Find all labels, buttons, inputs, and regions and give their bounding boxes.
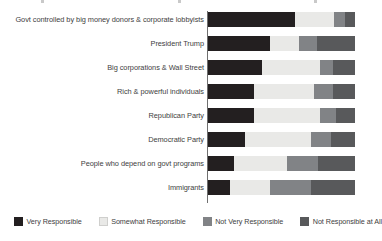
bar-segment-not-very-responsible	[287, 156, 318, 171]
legend-swatch-icon	[203, 217, 212, 226]
bar-segment-somewhat-responsible	[234, 156, 287, 171]
chart-legend: Very Responsible Somewhat Responsible No…	[0, 213, 374, 229]
bar-segment-very-responsible	[208, 84, 254, 99]
bar-segment-not-responsible-at-all	[345, 12, 355, 27]
bar-segment-not-responsible-at-all	[311, 180, 355, 195]
category-label: Rich & powerful individuals	[117, 83, 204, 100]
legend-label: Not Very Responsible	[215, 217, 283, 226]
bar-segment-somewhat-responsible	[230, 180, 270, 195]
category-label: Republican Party	[149, 107, 204, 124]
chart-row: Immigrants	[0, 179, 374, 196]
bar-segment-somewhat-responsible	[295, 12, 335, 27]
category-label: President Trump	[151, 35, 204, 52]
legend-label: Very Responsible	[27, 217, 82, 226]
category-label: Immigrants	[168, 179, 204, 196]
category-label: Democratic Party	[148, 131, 204, 148]
bar-segment-somewhat-responsible	[245, 132, 311, 147]
stacked-bar[interactable]	[208, 108, 355, 123]
stacked-bar[interactable]	[208, 12, 355, 27]
stacked-bar[interactable]	[208, 84, 355, 99]
chart-row: Big corporations & Wall Street	[0, 59, 374, 76]
bar-segment-not-very-responsible	[270, 180, 311, 195]
bar-segment-not-very-responsible	[311, 132, 332, 147]
stacked-bar[interactable]	[208, 180, 355, 195]
bar-segment-not-very-responsible	[320, 108, 336, 123]
bar-segment-not-very-responsible	[334, 12, 344, 27]
bar-segment-not-responsible-at-all	[331, 132, 355, 147]
bar-segment-not-responsible-at-all	[333, 60, 355, 75]
legend-item-very-responsible[interactable]: Very Responsible	[14, 217, 82, 226]
legend-label: Not Responsible at All	[313, 217, 382, 226]
bar-segment-somewhat-responsible	[254, 84, 314, 99]
legend-item-somewhat-responsible[interactable]: Somewhat Responsible	[99, 217, 186, 226]
bar-segment-not-responsible-at-all	[333, 84, 355, 99]
category-label: Big corporations & Wall Street	[107, 59, 204, 76]
stacked-bar[interactable]	[208, 36, 355, 51]
bar-segment-very-responsible	[208, 12, 295, 27]
chart-row: Govt controlled by big money donors & co…	[0, 11, 374, 28]
bar-segment-not-very-responsible	[314, 84, 333, 99]
legend-item-not-responsible-at-all[interactable]: Not Responsible at All	[300, 217, 382, 226]
legend-item-not-very-responsible[interactable]: Not Very Responsible	[203, 217, 284, 226]
bar-segment-not-responsible-at-all	[317, 36, 355, 51]
bar-segment-not-responsible-at-all	[318, 156, 355, 171]
axis-tick-remnants	[0, 0, 374, 6]
category-label: People who depend on govt programs	[81, 155, 204, 172]
legend-swatch-icon	[14, 217, 23, 226]
legend-label: Somewhat Responsible	[111, 217, 186, 226]
bar-segment-not-very-responsible	[320, 60, 333, 75]
plot-area: Govt controlled by big money donors & co…	[0, 11, 374, 203]
bar-segment-somewhat-responsible	[262, 60, 319, 75]
bar-segment-very-responsible	[208, 156, 234, 171]
chart-row: Republican Party	[0, 107, 374, 124]
bar-segment-very-responsible	[208, 60, 262, 75]
stacked-bar[interactable]	[208, 60, 355, 75]
chart-row: Democratic Party	[0, 131, 374, 148]
chart-row: Rich & powerful individuals	[0, 83, 374, 100]
bar-segment-not-very-responsible	[299, 36, 317, 51]
bar-segment-somewhat-responsible	[254, 108, 320, 123]
stacked-bar[interactable]	[208, 132, 355, 147]
bar-segment-very-responsible	[208, 180, 230, 195]
bar-segment-very-responsible	[208, 132, 245, 147]
bar-segment-somewhat-responsible	[270, 36, 299, 51]
bar-segment-not-responsible-at-all	[336, 108, 355, 123]
stacked-bar[interactable]	[208, 156, 355, 171]
category-label: Govt controlled by big money donors & co…	[15, 11, 204, 28]
chart-row: President Trump	[0, 35, 374, 52]
chart-row: People who depend on govt programs	[0, 155, 374, 172]
bar-segment-very-responsible	[208, 36, 270, 51]
bar-segment-very-responsible	[208, 108, 254, 123]
legend-swatch-icon	[99, 217, 108, 226]
legend-swatch-icon	[300, 217, 309, 226]
